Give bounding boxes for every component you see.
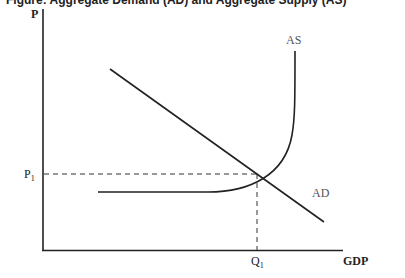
x-axis-label: GDP [343, 254, 368, 268]
ad-curve-label: AD [312, 186, 330, 200]
ad-curve [110, 69, 324, 222]
as-curve [98, 51, 295, 192]
p1-label-sub: 1 [31, 174, 35, 183]
q1-label-sub: 1 [260, 261, 264, 270]
q1-label: Q1 [251, 254, 264, 270]
ad-as-diagram: P GDP AS AD P1 Q1 [0, 0, 405, 278]
as-curve-label: AS [286, 33, 301, 47]
p1-label: P1 [24, 167, 35, 183]
q1-label-base: Q [251, 254, 260, 268]
y-axis-label: P [31, 7, 38, 21]
